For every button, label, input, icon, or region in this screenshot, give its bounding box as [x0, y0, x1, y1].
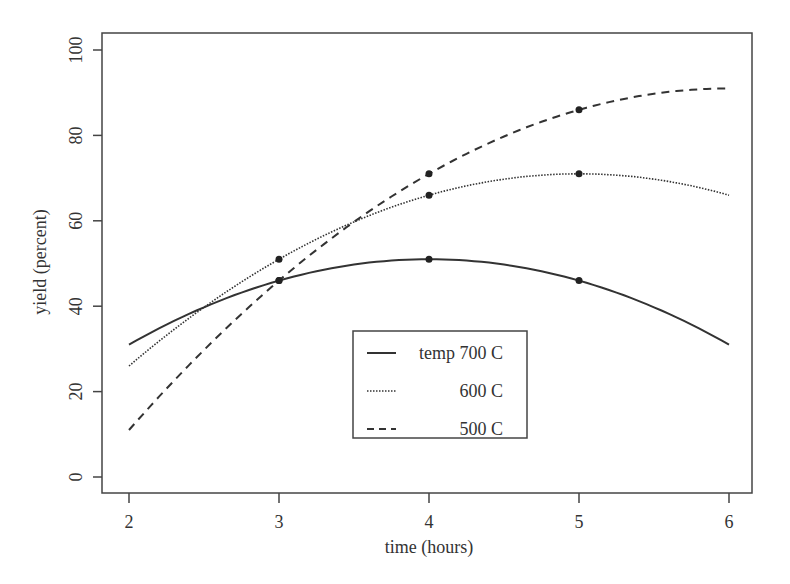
y-tick-label: 40 — [66, 297, 86, 315]
legend: temp 700 C 600 C 500 C — [353, 331, 527, 439]
x-tick-label: 6 — [725, 512, 734, 532]
y-axis-label: yield (percent) — [30, 209, 51, 314]
y-tick-label: 80 — [66, 126, 86, 144]
data-point-marker — [576, 277, 583, 284]
x-tick-label: 4 — [425, 512, 434, 532]
data-point-marker — [576, 170, 583, 177]
y-tick-label: 0 — [66, 473, 86, 482]
data-point-marker — [276, 256, 283, 263]
data-point-marker — [576, 106, 583, 113]
x-tick-label: 3 — [275, 512, 284, 532]
legend-label-600: 600 C — [459, 381, 503, 401]
legend-label-500: 500 C — [459, 419, 503, 439]
data-point-marker — [276, 277, 283, 284]
x-tick-label: 5 — [575, 512, 584, 532]
line-chart: 020406080100 23456 time (hours) yield (p… — [0, 0, 790, 584]
y-tick-label: 100 — [66, 37, 86, 64]
y-tick-label: 60 — [66, 212, 86, 230]
y-tick-label: 20 — [66, 383, 86, 401]
x-tick-label: 2 — [125, 512, 134, 532]
legend-label-700: temp 700 C — [419, 343, 503, 363]
data-point-marker — [426, 170, 433, 177]
y-axis: 020406080100 — [66, 37, 102, 482]
data-point-marker — [426, 256, 433, 263]
data-point-marker — [426, 192, 433, 199]
x-axis: 23456 — [125, 493, 734, 532]
x-axis-label: time (hours) — [385, 537, 473, 558]
